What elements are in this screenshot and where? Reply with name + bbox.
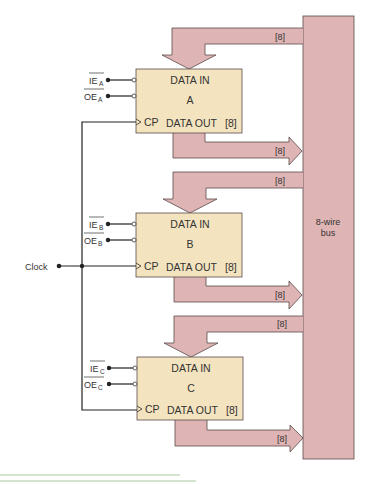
register-b-name: B bbox=[186, 238, 193, 250]
register-c-output-width: [8] bbox=[277, 434, 287, 444]
register-c-data-in: DATA IN bbox=[171, 362, 210, 374]
register-b-data-out: DATA OUT bbox=[166, 261, 218, 273]
register-c-cp: CP bbox=[145, 403, 160, 415]
register-b-ie-dot[interactable] bbox=[106, 222, 110, 226]
register-c-out-width: [8] bbox=[226, 404, 238, 416]
register-a-data-out: DATA OUT bbox=[166, 117, 218, 129]
clock-junction-dot bbox=[80, 264, 84, 268]
register-c-ie-bubble-icon bbox=[133, 366, 137, 370]
bus-diagram: 8-wire bus [8] [8] DATA IN A CP DATA OUT… bbox=[0, 0, 371, 484]
register-b-out-width: [8] bbox=[225, 261, 237, 273]
register-b-cp: CP bbox=[144, 260, 159, 272]
clock-wiring: Clock bbox=[25, 122, 137, 410]
register-a-ie-dot[interactable] bbox=[106, 78, 110, 82]
register-b-data-in: DATA IN bbox=[170, 218, 209, 230]
register-c-oe-dot[interactable] bbox=[107, 382, 111, 386]
register-c-name: C bbox=[187, 382, 195, 394]
register-b-ie-label: IE bbox=[89, 220, 98, 230]
register-a-cp: CP bbox=[144, 116, 159, 128]
clock-label: Clock bbox=[25, 262, 48, 272]
register-a-data-in: DATA IN bbox=[170, 74, 209, 86]
register-a-oe-sub: A bbox=[98, 96, 103, 103]
register-a-oe-label: OE bbox=[84, 92, 97, 102]
register-b-group: [8] [8] DATA IN B CP DATA OUT [8] IE B O… bbox=[84, 172, 303, 309]
register-a-oe-dot[interactable] bbox=[106, 94, 110, 98]
register-c-ie-dot[interactable] bbox=[107, 366, 111, 370]
register-c-input-width: [8] bbox=[277, 319, 287, 329]
register-b-oe-sub: B bbox=[98, 240, 102, 247]
register-a-group: [8] [8] DATA IN A CP DATA OUT [8] IE A O… bbox=[84, 28, 303, 165]
register-c-oe-label: OE bbox=[84, 380, 97, 390]
register-b-input-width: [8] bbox=[275, 176, 285, 186]
clock-input-dot[interactable] bbox=[57, 264, 62, 269]
register-c-oe-sub: C bbox=[98, 384, 103, 391]
register-a-ie-label: IE bbox=[89, 76, 98, 86]
register-c-ie-label: IE bbox=[90, 364, 99, 374]
register-b-output-width: [8] bbox=[275, 290, 285, 300]
register-b-ie-sub: B bbox=[99, 224, 103, 231]
register-c-ie-sub: C bbox=[100, 368, 105, 375]
register-a-ie-sub: A bbox=[99, 80, 104, 87]
register-c-data-out: DATA OUT bbox=[167, 404, 219, 416]
register-b-oe-label: OE bbox=[84, 236, 97, 246]
register-c-oe-bubble-icon bbox=[133, 382, 137, 386]
bus-label-line2: bus bbox=[321, 228, 336, 238]
bus-label-line1: 8-wire bbox=[316, 217, 341, 227]
register-b-oe-bubble-icon bbox=[132, 238, 136, 242]
register-a-output-width: [8] bbox=[275, 146, 285, 156]
register-c-group: [8] [8] DATA IN C CP DATA OUT [8] IE C O… bbox=[84, 316, 303, 452]
register-a-ie-bubble-icon bbox=[132, 78, 136, 82]
register-a-out-width: [8] bbox=[225, 117, 237, 129]
register-a-name: A bbox=[186, 94, 193, 106]
register-b-ie-bubble-icon bbox=[132, 222, 136, 226]
register-a-oe-bubble-icon bbox=[132, 94, 136, 98]
register-a-input-width: [8] bbox=[275, 32, 285, 42]
register-b-oe-dot[interactable] bbox=[106, 238, 110, 242]
